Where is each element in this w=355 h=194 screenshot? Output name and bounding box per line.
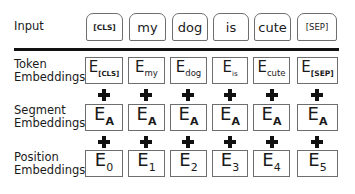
- input-token-cls: [CLS]: [86, 13, 123, 41]
- token-text: [CLS]: [93, 23, 116, 32]
- token-text: is: [226, 20, 236, 35]
- position-embedding-2: E2: [170, 150, 207, 177]
- plus-icon: [140, 136, 152, 148]
- token-embeddings-label: Token Embeddings: [14, 58, 85, 84]
- divider-line: [14, 48, 339, 51]
- segment-embedding-2: EA: [170, 104, 207, 131]
- token-embedding-cute: Ecute: [253, 57, 290, 84]
- token-embedding-cls: E[CLS]: [85, 57, 123, 84]
- position-embedding-0: E0: [85, 150, 123, 177]
- position-embedding-1: E1: [128, 150, 165, 177]
- token-text: [SEP]: [306, 22, 329, 32]
- input-token-is: is: [213, 13, 249, 41]
- plus-icon: [311, 89, 323, 101]
- segment-embedding-4: EA: [253, 104, 290, 131]
- input-token-dog: dog: [172, 13, 208, 41]
- token-text: my: [137, 20, 157, 35]
- segment-embedding-0: EA: [85, 104, 123, 131]
- input-row-label: Input: [14, 20, 44, 33]
- position-embedding-3: E3: [212, 150, 248, 177]
- plus-icon: [266, 89, 278, 101]
- input-token-my: my: [129, 13, 166, 41]
- input-token-sep: [SEP]: [297, 13, 337, 41]
- segment-embedding-1: EA: [128, 104, 165, 131]
- segment-embedding-3: EA: [212, 104, 248, 131]
- plus-icon: [182, 136, 194, 148]
- plus-icon: [224, 89, 236, 101]
- position-embedding-5: E5: [297, 150, 338, 177]
- plus-icon: [224, 136, 236, 148]
- plus-icon: [98, 136, 110, 148]
- position-embeddings-label: Position Embeddings: [14, 151, 85, 177]
- segment-embedding-5: EA: [297, 104, 338, 131]
- token-embedding-is: Eis: [212, 57, 248, 84]
- token-embedding-sep: E[SEP]: [297, 57, 338, 84]
- plus-icon: [98, 89, 110, 101]
- plus-icon: [311, 136, 323, 148]
- token-embedding-my: Emy: [128, 57, 165, 84]
- plus-icon: [266, 136, 278, 148]
- position-embedding-4: E4: [253, 150, 290, 177]
- plus-icon: [140, 89, 152, 101]
- token-embedding-dog: Edog: [170, 57, 207, 84]
- token-text: cute: [258, 20, 286, 35]
- input-token-cute: cute: [254, 13, 291, 41]
- plus-icon: [182, 89, 194, 101]
- token-text: dog: [178, 20, 202, 35]
- segment-embeddings-label: Segment Embeddings: [14, 104, 85, 130]
